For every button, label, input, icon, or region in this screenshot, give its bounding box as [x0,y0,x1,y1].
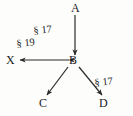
edge-b-to-c [47,67,68,95]
diagram-canvas [0,0,133,116]
edge-label-section-17-right: § 17 [94,76,113,88]
node-label-d: D [99,97,108,109]
node-label-b: B [69,54,77,66]
node-label-x: X [6,54,15,66]
edge-label-section-17-top: § 17 [33,24,52,36]
citation-graph-diagram: A B X C D § 17 § 19 § 17 [0,0,133,116]
node-label-c: C [39,97,47,109]
edge-label-section-19-left: § 19 [16,37,35,49]
node-label-a: A [71,2,80,14]
